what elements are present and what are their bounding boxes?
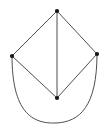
graph-figure (0, 0, 109, 135)
graph-canvas (0, 0, 109, 135)
vertex-bottom (55, 96, 59, 100)
edge-top-right (57, 11, 97, 54)
edge-left-bottom (12, 56, 57, 98)
edge-group (12, 11, 97, 123)
vertex-left (10, 54, 14, 58)
vertex-group (10, 9, 99, 100)
vertex-top (55, 9, 59, 13)
edge-top-left (12, 11, 57, 56)
vertex-right (95, 52, 99, 56)
edge-left-right (12, 54, 97, 123)
edge-right-bottom (57, 54, 97, 98)
